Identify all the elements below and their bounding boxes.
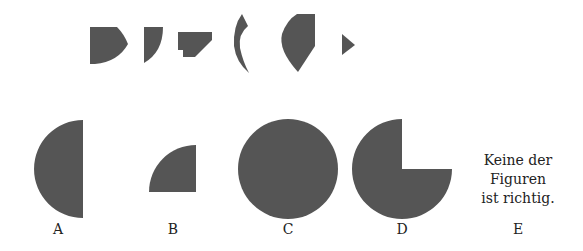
- piece-5: [281, 14, 315, 72]
- piece-1: [90, 27, 128, 64]
- puzzle-canvas: [0, 0, 583, 251]
- piece-6: [342, 34, 355, 55]
- option-c-label[interactable]: C: [273, 221, 303, 237]
- option-e-line-1: Keine der: [468, 151, 568, 170]
- piece-3: [178, 32, 212, 57]
- option-a-semicircle[interactable]: [34, 120, 83, 218]
- option-b-label[interactable]: B: [158, 221, 188, 237]
- options-row: [34, 119, 452, 219]
- piece-4: [234, 14, 249, 73]
- option-e-line-2: Figuren: [468, 170, 568, 189]
- option-d-label[interactable]: D: [387, 221, 417, 237]
- option-d-three-quarter-circle[interactable]: [352, 119, 452, 219]
- option-b-quarter-circle[interactable]: [149, 145, 196, 192]
- option-a-label[interactable]: A: [43, 221, 73, 237]
- option-c-circle[interactable]: [238, 119, 338, 219]
- piece-2: [144, 27, 163, 63]
- option-e-label[interactable]: E: [503, 221, 533, 237]
- option-e-text[interactable]: Keine der Figuren ist richtig.: [468, 151, 568, 208]
- pieces-row: [90, 14, 355, 73]
- option-e-line-3: ist richtig.: [468, 189, 568, 208]
